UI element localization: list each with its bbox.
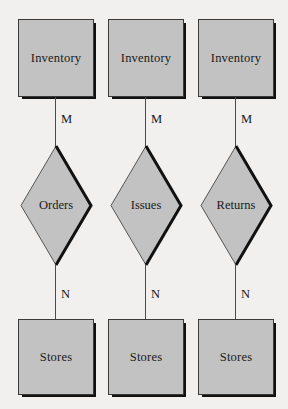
cardinality-label-m: M	[241, 113, 252, 126]
er-relationship-group-issues: Inventory M Issues N Stores	[98, 0, 194, 409]
diamond-shape-icon	[20, 145, 92, 266]
er-relationship-group-returns: Inventory M Returns N Stores	[188, 0, 284, 409]
entity-box-stores[interactable]: Stores	[18, 319, 94, 395]
cardinality-label-n: N	[61, 288, 70, 301]
entity-box-inventory[interactable]: Inventory	[198, 19, 274, 97]
entity-label: Inventory	[31, 52, 81, 65]
entity-label: Stores	[130, 351, 162, 364]
entity-box-stores[interactable]: Stores	[108, 319, 184, 395]
connector-line-bottom	[55, 264, 56, 320]
cardinality-label-n: N	[151, 288, 160, 301]
entity-box-stores[interactable]: Stores	[198, 319, 274, 395]
cardinality-label-m: M	[61, 113, 72, 126]
entity-label: Inventory	[121, 52, 171, 65]
connector-line-bottom	[235, 264, 236, 320]
relationship-diamond-orders[interactable]: Orders	[20, 145, 92, 266]
diamond-shape-icon	[200, 145, 272, 266]
cardinality-label-n: N	[241, 288, 250, 301]
relationship-diamond-returns[interactable]: Returns	[200, 145, 272, 266]
entity-label: Stores	[40, 351, 72, 364]
entity-label: Stores	[220, 351, 252, 364]
relationship-diamond-issues[interactable]: Issues	[110, 145, 182, 266]
entity-label: Inventory	[211, 52, 261, 65]
connector-line-top	[55, 97, 56, 147]
entity-box-inventory[interactable]: Inventory	[18, 19, 94, 97]
er-diagram-canvas: Inventory M Orders N Stores Inventory M	[0, 0, 288, 409]
connector-line-bottom	[145, 264, 146, 320]
connector-line-top	[145, 97, 146, 147]
er-relationship-group-orders: Inventory M Orders N Stores	[8, 0, 104, 409]
cardinality-label-m: M	[151, 113, 162, 126]
diamond-shape-icon	[110, 145, 182, 266]
entity-box-inventory[interactable]: Inventory	[108, 19, 184, 97]
connector-line-top	[235, 97, 236, 147]
